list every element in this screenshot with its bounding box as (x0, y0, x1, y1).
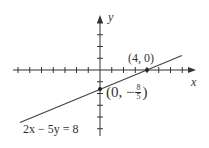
y-intercept-fraction: 8 5 (135, 84, 141, 101)
y-intercept-suffix: ) (142, 85, 147, 100)
x-intercept-point (145, 68, 149, 72)
x-axis-arrow-icon (188, 67, 196, 73)
equation-label: 2x − 5y = 8 (23, 123, 79, 135)
y-intercept-point (98, 87, 102, 91)
y-intercept-label: (0, − 8 5 ) (106, 84, 147, 101)
x-axis-label: x (191, 76, 196, 88)
x-intercept-label: (4, 0) (128, 52, 154, 64)
y-axis-label: y (108, 11, 113, 23)
y-axis-arrow-icon (97, 15, 103, 23)
fraction-denominator: 5 (136, 93, 140, 101)
y-intercept-prefix: (0, − (106, 85, 134, 100)
